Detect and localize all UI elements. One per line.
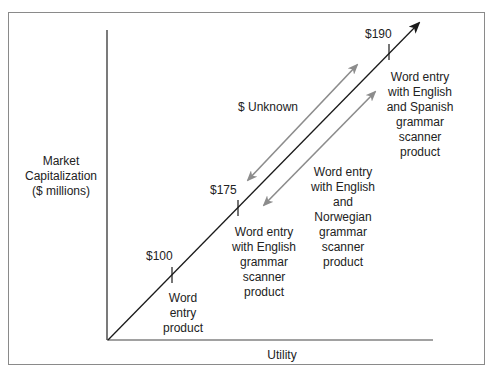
x-axis-label: Utility [252,348,312,363]
product-word-entry: Word entry product [150,291,216,336]
product-english-spanish-grammar: Word entry with English and Spanish gram… [380,70,460,160]
unknown-value-label: $ Unknown [238,100,298,115]
product-english-grammar: Word entry with English grammar scanner … [224,225,304,300]
product-english-norwegian-grammar: Word entry with English and Norwegian gr… [303,165,383,270]
price-label-190: $190 [365,27,392,42]
price-label-175: $175 [210,183,237,198]
price-label-100: $100 [146,249,173,264]
unknown-value-double-arrow [248,65,357,180]
y-axis-label: Market Capitalization ($ millions) [20,154,102,199]
